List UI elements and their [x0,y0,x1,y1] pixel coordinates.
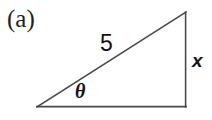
figure-container: (a) 5 x θ [0,0,212,120]
hypotenuse-length-label: 5 [100,32,113,55]
panel-label: (a) [7,6,35,31]
hypotenuse-line [37,12,186,107]
opposite-side-length-label: x [192,51,203,70]
angle-theta-label: θ [75,81,85,101]
